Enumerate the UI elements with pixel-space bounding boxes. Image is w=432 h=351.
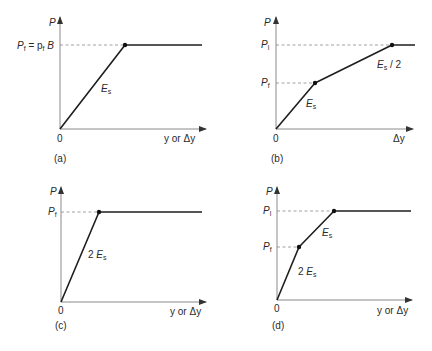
- load-curve: [60, 45, 202, 129]
- panel-caption: (d): [272, 320, 284, 331]
- yield-point: [123, 43, 127, 47]
- panel-d: P Pl Pf 2 Es Es 0 y or Δy (d): [263, 186, 412, 331]
- slope-label-es: Es: [101, 83, 112, 95]
- slope-label-es-half: Es / 2: [377, 59, 402, 71]
- y-axis-label: P: [264, 17, 271, 28]
- level-label-pf: Pf = pf B: [17, 40, 54, 52]
- slope-label-es: Es: [306, 98, 317, 110]
- level-label-pf: Pf: [261, 77, 270, 89]
- x-axis-label: y or Δy: [170, 306, 201, 317]
- level-label-pf: Pf: [263, 241, 272, 253]
- level-label-pl: Pl: [263, 205, 272, 217]
- load-curve: [276, 45, 415, 129]
- x-axis-label: y or Δy: [164, 133, 195, 144]
- y-axis-label: P: [266, 186, 273, 197]
- slope-label-es: Es: [322, 227, 333, 239]
- origin-label: 0: [57, 133, 63, 144]
- level-label-pf: Pf: [48, 206, 57, 218]
- first-knee-point: [313, 81, 317, 85]
- panel-b: P Pl Pf Es Es / 2 0 Δy (b): [261, 17, 415, 164]
- load-curve: [61, 212, 202, 302]
- second-knee-point: [390, 43, 394, 47]
- slope-label-2es: 2 Es: [298, 266, 317, 278]
- origin-label: 0: [58, 305, 64, 316]
- yield-point: [97, 210, 101, 214]
- panel-caption: (c): [55, 320, 67, 331]
- y-axis-label: P: [50, 186, 57, 197]
- panel-a: P Pf = pf B Es 0 y or Δy (a): [17, 17, 206, 164]
- level-label-pl: Pl: [261, 39, 270, 51]
- panel-caption: (b): [271, 153, 283, 164]
- slope-label-2es: 2 Es: [88, 249, 107, 261]
- x-axis-label: y or Δy: [377, 305, 408, 316]
- load-curve: [277, 211, 411, 300]
- origin-label: 0: [273, 133, 279, 144]
- origin-label: 0: [274, 303, 280, 314]
- x-axis-label: Δy: [393, 133, 405, 144]
- panel-caption: (a): [54, 153, 66, 164]
- load-displacement-figure: P Pf = pf B Es 0 y or Δy (a) P Pl Pf Es …: [0, 0, 432, 351]
- second-knee-point: [332, 209, 336, 213]
- panel-c: P Pf 2 Es 0 y or Δy (c): [48, 186, 206, 331]
- first-knee-point: [297, 245, 301, 249]
- y-axis-label: P: [49, 17, 56, 28]
